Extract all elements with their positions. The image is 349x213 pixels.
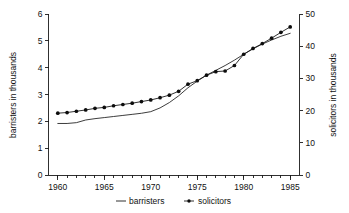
series-marker-solicitors-point <box>214 70 218 74</box>
right-axis-tick-label: 40 <box>306 41 316 51</box>
left-axis-title: barristers in thousands <box>8 52 18 138</box>
series-marker-solicitors-point <box>242 52 246 56</box>
left-axis-tick-label: 0 <box>38 170 43 180</box>
series-marker-solicitors-point <box>288 25 292 29</box>
series-marker-solicitors-point <box>65 111 69 115</box>
series-marker-solicitors-point <box>168 93 172 97</box>
series-marker-solicitors-point <box>195 79 199 83</box>
series-marker-solicitors-point <box>186 82 190 86</box>
series-marker-solicitors-point <box>233 64 237 68</box>
x-axis-tick-label: 1985 <box>281 182 300 192</box>
series-marker-solicitors-point <box>279 30 283 34</box>
series-marker-solicitors-point <box>270 36 274 40</box>
series-marker-solicitors-point <box>177 89 181 93</box>
legend-label-barristers: barristers <box>129 196 164 206</box>
right-axis-tick-label: 0 <box>306 170 311 180</box>
legend-swatch-solicitors-dot-icon <box>187 199 190 202</box>
line-chart: 0123456 barristers in thousands 01020304… <box>0 0 349 213</box>
series-marker-solicitors-point <box>140 100 144 104</box>
left-axis-tick-label: 3 <box>38 90 43 100</box>
series-marker-solicitors-point <box>205 73 209 77</box>
right-axis-tick-label: 50 <box>306 9 316 19</box>
series-marker-solicitors-point <box>223 69 227 73</box>
right-axis-tick-label: 10 <box>306 138 316 148</box>
left-axis-tick-label: 1 <box>38 143 43 153</box>
series-marker-solicitors-point <box>75 109 79 113</box>
x-axis-tick-label: 1970 <box>141 182 160 192</box>
left-axis-tick-label: 5 <box>38 36 43 46</box>
chart-figure: 0123456 barristers in thousands 01020304… <box>0 0 349 213</box>
series-marker-solicitors-point <box>56 111 60 115</box>
series-marker-solicitors-point <box>158 96 162 100</box>
series-marker-solicitors-point <box>149 98 153 102</box>
right-axis-tick-label: 20 <box>306 106 316 116</box>
series-marker-solicitors-point <box>93 107 97 111</box>
series-marker-solicitors-point <box>260 42 264 46</box>
series-marker-solicitors-point <box>130 101 134 105</box>
left-axis-tick-label: 2 <box>38 116 43 126</box>
x-axis-tick-label: 1980 <box>234 182 253 192</box>
series-marker-solicitors-point <box>102 106 106 110</box>
right-axis-tick-label: 30 <box>306 73 316 83</box>
legend-label-solicitors: solicitors <box>198 196 231 206</box>
left-axis-tick-label: 6 <box>38 9 43 19</box>
series-marker-solicitors-point <box>251 47 255 51</box>
x-axis-tick-label: 1975 <box>188 182 207 192</box>
x-axis-tick-label: 1965 <box>95 182 114 192</box>
left-axis-tick-label: 4 <box>38 63 43 73</box>
right-axis-title: solicitors in thousands <box>328 53 338 137</box>
series-marker-solicitors-point <box>121 103 125 107</box>
series-marker-solicitors-point <box>84 108 88 112</box>
series-marker-solicitors-point <box>112 104 116 108</box>
x-axis-tick-label: 1960 <box>48 182 67 192</box>
